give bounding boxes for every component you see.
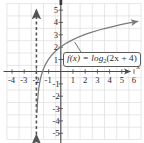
x-tick-3: 3 [95,75,99,85]
x-tick-6: 6 [132,75,137,85]
log-function-graph-figure: -4 -3 -2 -1 1 2 3 4 5 6 5 4 3 2 1 -1 -2 … [0,0,144,143]
coordinate-plane: -4 -3 -2 -1 1 2 3 4 5 6 5 4 3 2 1 -1 -2 … [0,0,144,143]
y-tick-3: 3 [54,30,58,40]
function-equation: f(x) = log2(2x + 4) [67,54,137,64]
x-tick-2: 2 [83,75,87,85]
log-argument: (2x + 4) [106,53,136,63]
y-tick-2: 2 [54,42,58,52]
x-tick--1: -1 [45,75,52,85]
y-tick-4: 4 [54,17,59,27]
y-tick--3: -3 [52,104,59,114]
y-tick-1: 1 [54,55,58,65]
function-name: f(x) = log [67,53,103,63]
x-tick--2: -2 [32,75,39,85]
y-tick-5: 5 [54,5,58,15]
y-tick--5: -5 [52,128,59,138]
y-axis-top-cap [60,0,63,5]
x-tick-5: 5 [120,75,124,85]
function-label-callout: f(x) = log2(2x + 4) [63,52,141,67]
y-tick--4: -4 [52,116,60,126]
x-tick-1: 1 [71,75,75,85]
x-tick--3: -3 [20,75,27,85]
x-tick--4: -4 [8,75,16,85]
y-tick--2: -2 [52,91,59,101]
x-tick-labels: -4 -3 -2 -1 1 2 3 4 5 6 [8,75,137,85]
y-tick--1: -1 [52,79,59,89]
axes [4,0,131,143]
x-tick-4: 4 [107,75,112,85]
